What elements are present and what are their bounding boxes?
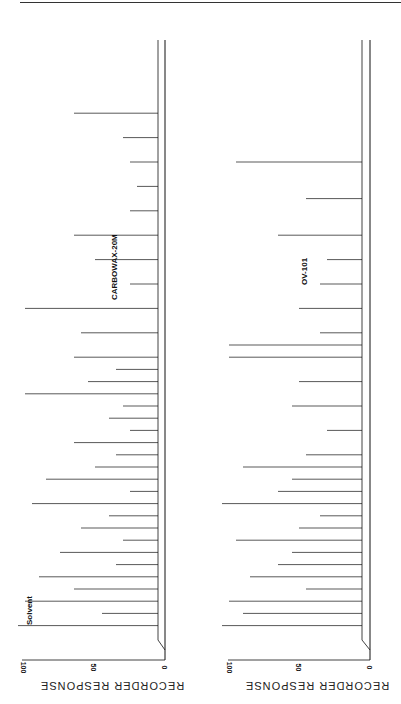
chart-title-ov101: OV-101 (300, 258, 309, 285)
y-tick-bottom-50: 50 (295, 664, 302, 672)
ov101-chart (222, 40, 370, 660)
chart-title-carbowax: CARBOWAX-20M (110, 234, 119, 300)
y-axis-title-top: RECORDER RESPONSE (40, 680, 184, 692)
y-tick-top-100: 100 (20, 662, 27, 674)
chromatogram-figure (0, 0, 401, 704)
carbowax-chart (18, 40, 165, 660)
y-tick-bottom-100: 100 (226, 662, 233, 674)
y-tick-top-50: 50 (90, 664, 97, 672)
y-axis-title-bottom: RECORDER RESPONSE (245, 680, 389, 692)
y-tick-top-0: 0 (161, 666, 168, 670)
y-tick-bottom-0: 0 (366, 666, 373, 670)
solvent-label: Solvent (25, 596, 34, 625)
